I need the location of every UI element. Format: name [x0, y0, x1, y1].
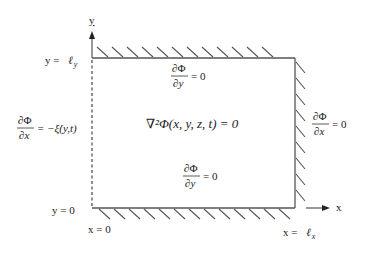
x-axis — [306, 205, 330, 211]
svg-text:∂Φ: ∂Φ — [172, 62, 185, 74]
svg-text:= 0: = 0 — [332, 118, 347, 130]
bottom-boundary-condition: ∂Φ ∂y = 0 — [183, 162, 218, 189]
bottom-wall-hatching — [99, 209, 290, 219]
top-boundary-condition: ∂Φ ∂y = 0 — [171, 62, 206, 89]
y-max-label: y = ℓy — [45, 54, 78, 69]
left-boundary-condition: ∂Φ ∂x = −ξ̇(y,t) — [17, 114, 77, 141]
y-axis-label: y — [89, 14, 95, 26]
right-boundary-condition: ∂Φ ∂x = 0 — [312, 110, 347, 137]
svg-text:∂Φ: ∂Φ — [313, 110, 326, 122]
top-wall-hatching — [97, 47, 273, 57]
y-axis-arrowhead-icon — [89, 31, 95, 39]
svg-text:∂y: ∂y — [173, 77, 183, 89]
right-wall-hatching — [296, 62, 305, 201]
svg-text:∂Φ: ∂Φ — [184, 162, 197, 174]
y-zero-label: y = 0 — [52, 204, 75, 216]
svg-text:∂Φ: ∂Φ — [18, 114, 31, 126]
svg-text:∂x: ∂x — [19, 129, 29, 141]
svg-text:∂x: ∂x — [314, 125, 324, 137]
svg-text:∂y: ∂y — [185, 177, 195, 189]
svg-text:= 0: = 0 — [191, 70, 206, 82]
svg-text:= −ξ̇(y,t): = −ξ̇(y,t) — [37, 122, 77, 135]
diagram-canvas: y x y = ℓy y = 0 x = 0 x = ℓx ∂Φ ∂y = 0 … — [0, 0, 366, 254]
x-axis-arrowhead-icon — [322, 205, 330, 211]
governing-equation: ∇²Φ(x, y, z, t) = 0 — [146, 116, 239, 131]
svg-text:= 0: = 0 — [203, 170, 218, 182]
x-max-label: x = ℓx — [283, 226, 316, 241]
y-axis — [89, 31, 95, 58]
x-zero-label: x = 0 — [88, 223, 111, 235]
x-axis-label: x — [336, 201, 342, 213]
